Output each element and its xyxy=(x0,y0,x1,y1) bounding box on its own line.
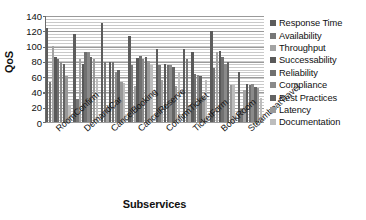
legend-item[interactable]: Throughput xyxy=(270,42,366,54)
legend-swatch-icon xyxy=(270,107,276,113)
legend-swatch-icon xyxy=(270,95,276,101)
legend-swatch-icon xyxy=(270,119,276,125)
y-axis-title: QoS xyxy=(3,40,15,84)
legend-item[interactable]: Availability xyxy=(270,29,366,41)
bar-chart: QoS 140120100806040200 RoomConfirmDemand… xyxy=(0,0,366,220)
legend-label: Best Practices xyxy=(279,93,337,103)
legend-item[interactable]: Compliance xyxy=(270,79,366,91)
y-tick-label: 0 xyxy=(37,119,42,128)
x-axis-tick-labels: RoomConfirmDemandCarCancelBookingCancelR… xyxy=(45,124,264,198)
y-tick-label: 40 xyxy=(31,88,42,97)
legend-label: Response Time xyxy=(279,18,342,28)
legend-item[interactable]: Reliability xyxy=(270,67,366,79)
legend-swatch-icon xyxy=(270,33,276,39)
legend-label: Throughput xyxy=(279,43,326,53)
y-tick-label: 140 xyxy=(26,12,42,21)
y-tick-label: 60 xyxy=(31,73,42,82)
y-tickmark xyxy=(43,122,47,123)
bar-group xyxy=(46,16,73,122)
y-axis-tick-labels: 140120100806040200 xyxy=(18,11,42,123)
legend-swatch-icon xyxy=(270,70,276,76)
y-tick-label: 80 xyxy=(31,57,42,66)
legend-item[interactable]: Best Practices xyxy=(270,91,366,103)
legend-label: Compliance xyxy=(279,80,327,90)
legend-label: Documentation xyxy=(279,117,340,127)
legend-swatch-icon xyxy=(270,20,276,26)
legend-item[interactable]: Successability xyxy=(270,54,366,66)
legend-swatch-icon xyxy=(270,45,276,51)
y-tick-label: 120 xyxy=(26,27,42,36)
legend-item[interactable]: Response Time xyxy=(270,17,366,29)
x-axis-title: Subservices xyxy=(45,198,264,210)
legend-item[interactable]: Latency xyxy=(270,104,366,116)
legend-label: Reliability xyxy=(279,68,318,78)
legend-swatch-icon xyxy=(270,82,276,88)
y-tick-label: 100 xyxy=(26,42,42,51)
legend-item[interactable]: Documentation xyxy=(270,116,366,128)
chart-legend: Response TimeAvailabilityThroughputSucce… xyxy=(270,17,366,129)
legend-swatch-icon xyxy=(270,57,276,63)
legend-label: Latency xyxy=(279,105,311,115)
legend-label: Successability xyxy=(279,55,337,65)
y-tick-label: 20 xyxy=(31,103,42,112)
legend-label: Availability xyxy=(279,31,322,41)
